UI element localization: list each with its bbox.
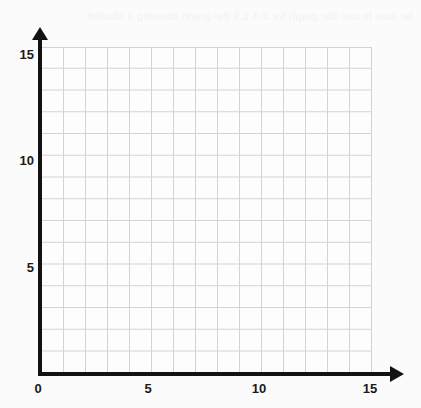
x-tick-label-0: 0 [34,381,41,396]
y-tick-label-10: 10 [20,153,34,168]
coordinate-grid-chart: 0 5 10 15 15 10 5 [0,0,421,408]
worksheet-page: be sure to use the graph for 3.4-1.9 the… [0,0,421,408]
x-tick-label-10: 10 [252,381,266,396]
x-tick-label-15: 15 [363,381,377,396]
grid-background [42,47,372,373]
x-axis-line [38,372,392,376]
y-axis-line [38,36,42,376]
x-axis-arrow-icon [390,366,404,382]
y-tick-label-15: 15 [20,47,34,62]
x-tick-label-5: 5 [144,381,151,396]
y-tick-label-5: 5 [27,260,34,275]
y-axis-arrow-icon [32,27,48,40]
